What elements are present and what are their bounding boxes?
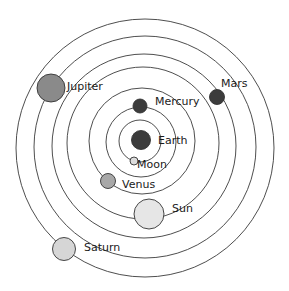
moon-label: Moon [137,159,167,170]
saturn-icon [53,238,76,261]
saturn-label: Saturn [84,242,120,253]
venus-icon [101,174,116,189]
jupiter-icon [37,74,65,102]
venus-label: Venus [122,179,155,190]
mars-icon [210,90,225,105]
jupiter-label: Jupiter [67,81,103,92]
mercury-label: Mercury [155,96,200,107]
mars-label: Mars [221,78,248,89]
sun-icon [134,199,164,229]
earth-label: Earth [158,135,188,146]
mercury-icon [133,99,147,113]
geocentric-diagram [0,0,289,291]
sun-label: Sun [172,203,193,214]
earth-icon [132,131,151,150]
